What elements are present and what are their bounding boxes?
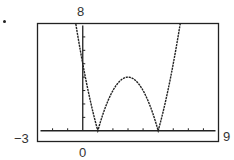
viewing-window-frame xyxy=(38,24,219,142)
axis-ticks xyxy=(38,37,219,131)
function-curve xyxy=(76,24,180,131)
axes xyxy=(41,26,216,131)
graph-window xyxy=(0,0,234,160)
